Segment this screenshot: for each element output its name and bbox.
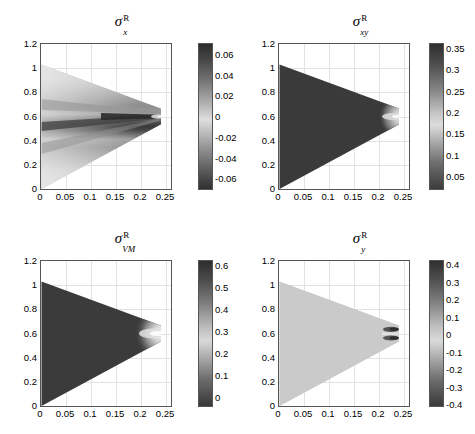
y-ticklabel: 0.4 [24,351,37,362]
y-ticklabel: 0.2 [262,158,275,169]
colorbar-ticklabel: 0.15 [446,128,465,139]
field-image-sigma-y [279,261,409,406]
plot-area-sigma-vm [40,260,172,407]
plot-area-sigma-xy [278,43,410,190]
x-ticklabel: 0 [37,408,42,419]
x-ticklabel: 0.15 [344,191,363,202]
y-ticklabel: 1.2 [24,38,37,49]
y-ticklabel: 0 [32,183,37,194]
x-ticklabel: 0.25 [394,408,413,419]
sigma-glyph: σ [115,230,122,246]
x-ticklabel: 0 [37,191,42,202]
colorbar-ticklabel: -0.4 [446,399,462,410]
superscript-R: R [361,14,367,23]
y-ticklabel: 0 [270,183,275,194]
subscript-VM: VM [122,245,135,254]
colorbar-ticklabel: 0.3 [446,276,459,287]
y-ticklabel: 0 [32,400,37,411]
panel-sigma-xy: σRxy [238,0,475,217]
x-ticklabel: 0.1 [83,408,96,419]
colorbar-ticklabel: 0.5 [215,282,228,293]
panel-sigma-y: σRy [238,217,475,434]
x-ticklabel: 0.25 [156,191,175,202]
y-ticklabel: 1.2 [262,255,275,266]
panel-title-sigma-vm: σRVM [0,231,237,246]
x-ticklabel: 0.15 [106,408,125,419]
y-ticklabel: 0.4 [24,134,37,145]
colorbar-ticklabel: 0.06 [215,49,234,60]
y-ticklabel: 1.2 [262,38,275,49]
y-ticklabel: 0.6 [262,110,275,121]
subscript-xy: xy [360,28,368,37]
y-ticklabel: 0.8 [262,86,275,97]
panel-title-sigma-y: σRy [238,231,475,246]
colorbar-ticklabel: 0.35 [446,43,465,54]
y-ticklabel: 0.8 [24,303,37,314]
y-ticklabel: 0 [270,400,275,411]
y-axis-ticklabels-sigma-y: 1.2 1 0.8 0.6 0.4 0.2 0 [238,260,275,405]
colorbar-ticklabel: -0.04 [215,152,237,163]
x-ticklabel: 0.1 [83,191,96,202]
y-axis-ticklabels-sigma-xy: 1.2 1 0.8 0.6 0.4 0.2 0 [238,43,275,188]
colorbar-ticklabel: 0 [215,111,220,122]
x-axis-ticklabels-sigma-x: 0 0.05 0.1 0.15 0.2 0.25 [40,191,170,205]
sigma-glyph: σ [353,230,360,246]
panel-title-sigma-x: σRx [0,14,237,29]
colorbar-ticklabel: 0.4 [446,259,459,270]
panel-sigma-vm: σRVM [0,217,237,434]
superscript-R: R [123,14,129,23]
colorbar-ticklabel: 0.6 [215,260,228,271]
y-ticklabel: 0.2 [24,375,37,386]
x-ticklabel: 0.25 [394,191,413,202]
subscript-x: x [123,28,127,37]
colorbar-ticklabel: 0.3 [215,326,228,337]
superscript-R: R [361,231,367,240]
x-ticklabel: 0.2 [133,191,146,202]
y-ticklabel: 1 [270,279,275,290]
colorbar-ticklabel: -0.2 [446,364,462,375]
colorbar-ticklabel: 0.1 [446,311,459,322]
colorbar-gradient [429,43,444,190]
colorbar-ticklabel: 0.2 [446,294,459,305]
colorbar-ticklabel: 0.02 [215,90,234,101]
x-ticklabel: 0.05 [56,408,75,419]
colorbar-ticklabel: -0.02 [215,131,237,142]
colorbar-gradient [198,43,213,190]
colorbar-ticklabel: 0.2 [446,106,459,117]
x-ticklabel: 0.05 [56,191,75,202]
y-ticklabel: 1 [32,279,37,290]
colorbar-ticklabel: 0.4 [215,304,228,315]
x-axis-ticklabels-sigma-vm: 0 0.05 0.1 0.15 0.2 0.25 [40,408,170,422]
y-ticklabel: 1.2 [24,255,37,266]
colorbar-gradient [198,260,213,407]
x-ticklabel: 0 [275,408,280,419]
colorbar-ticklabel: 0.2 [215,348,228,359]
y-ticklabel: 0.6 [24,110,37,121]
x-ticklabel: 0 [275,191,280,202]
x-ticklabel: 0.05 [294,408,313,419]
x-axis-ticklabels-sigma-y: 0 0.05 0.1 0.15 0.2 0.25 [278,408,408,422]
x-ticklabel: 0.25 [156,408,175,419]
plot-area-sigma-y [278,260,410,407]
field-image-sigma-vm [41,261,171,406]
x-ticklabel: 0.2 [133,408,146,419]
y-ticklabel: 1 [270,62,275,73]
colorbar-ticklabel: 0.04 [215,69,234,80]
colorbar-ticklabel: 0.3 [446,64,459,75]
y-axis-ticklabels-sigma-vm: 1.2 1 0.8 0.6 0.4 0.2 0 [0,260,37,405]
colorbar-ticklabel: 0.1 [215,370,228,381]
y-ticklabel: 0.2 [262,375,275,386]
y-ticklabel: 0.8 [24,86,37,97]
y-ticklabel: 0.4 [262,134,275,145]
colorbar-gradient [429,260,444,407]
x-ticklabel: 0.2 [371,191,384,202]
y-ticklabel: 0.4 [262,351,275,362]
x-ticklabel: 0.05 [294,191,313,202]
colorbar-ticklabel: 0.1 [446,149,459,160]
panel-title-sigma-xy: σRxy [238,14,475,29]
y-ticklabel: 0.6 [24,327,37,338]
field-image-sigma-x [41,44,171,189]
plot-area-sigma-x [40,43,172,190]
x-ticklabel: 0.1 [321,408,334,419]
x-ticklabel: 0.15 [344,408,363,419]
